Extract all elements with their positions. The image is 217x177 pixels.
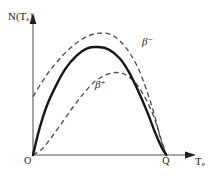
- x-axis-label: Te: [195, 156, 205, 168]
- y-axis-label-main: N(T: [8, 10, 26, 22]
- beta-plus-superscript: +: [100, 77, 105, 87]
- origin-label: O: [24, 156, 31, 166]
- y-axis-label: N(Te): [8, 11, 33, 23]
- plot-canvas: [0, 0, 217, 177]
- x-axis-label-subscript: e: [202, 160, 205, 168]
- beta-minus-annotation: β−: [142, 35, 153, 47]
- x-axis-label-main: T: [195, 155, 202, 167]
- beta-plus-annotation: β+: [95, 78, 106, 90]
- beta-minus-superscript: −: [147, 34, 152, 44]
- endpoint-q-label: Q: [162, 156, 169, 166]
- y-axis-label-close: ): [29, 10, 33, 22]
- beta-spectrum-figure: N(Te) Te O Q β− β+: [0, 0, 217, 177]
